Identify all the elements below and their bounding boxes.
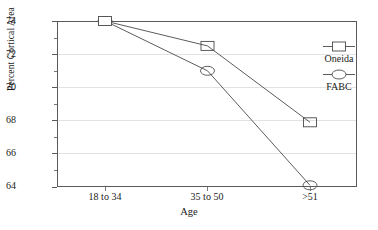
legend-marker-square-icon bbox=[313, 40, 365, 53]
x-tick-label-2: >51 bbox=[265, 191, 355, 202]
gridline-68 bbox=[58, 120, 356, 121]
legend-label-oneida: Oneida bbox=[313, 53, 365, 64]
chart-figure: Percent Cortical Area 74 72 70 68 66 64 bbox=[0, 0, 378, 230]
x-tick-label-0: 18 to 34 bbox=[60, 191, 150, 202]
legend-entry-oneida: Oneida bbox=[313, 40, 365, 68]
legend-label-fabc: FABC bbox=[313, 81, 365, 92]
y-tick-label-70: 70 bbox=[0, 82, 16, 92]
gridline-66 bbox=[58, 153, 356, 154]
x-axis-title: Age bbox=[0, 206, 378, 217]
y-tick-label-68: 68 bbox=[0, 115, 16, 125]
chart-legend: Oneida FABC bbox=[313, 40, 365, 96]
y-tick-label-72: 72 bbox=[0, 49, 16, 59]
y-tick-label-66: 66 bbox=[0, 148, 16, 158]
y-tick-mark-64 bbox=[52, 187, 57, 188]
y-tick-label-74: 74 bbox=[0, 16, 16, 26]
plot-area bbox=[57, 21, 357, 187]
legend-entry-fabc: FABC bbox=[313, 68, 365, 96]
gridline-72 bbox=[58, 54, 356, 55]
x-tick-label-1: 35 to 50 bbox=[162, 191, 252, 202]
legend-marker-ellipse-icon bbox=[313, 68, 365, 81]
y-tick-label-64: 64 bbox=[0, 181, 16, 191]
gridline-70 bbox=[58, 87, 356, 88]
